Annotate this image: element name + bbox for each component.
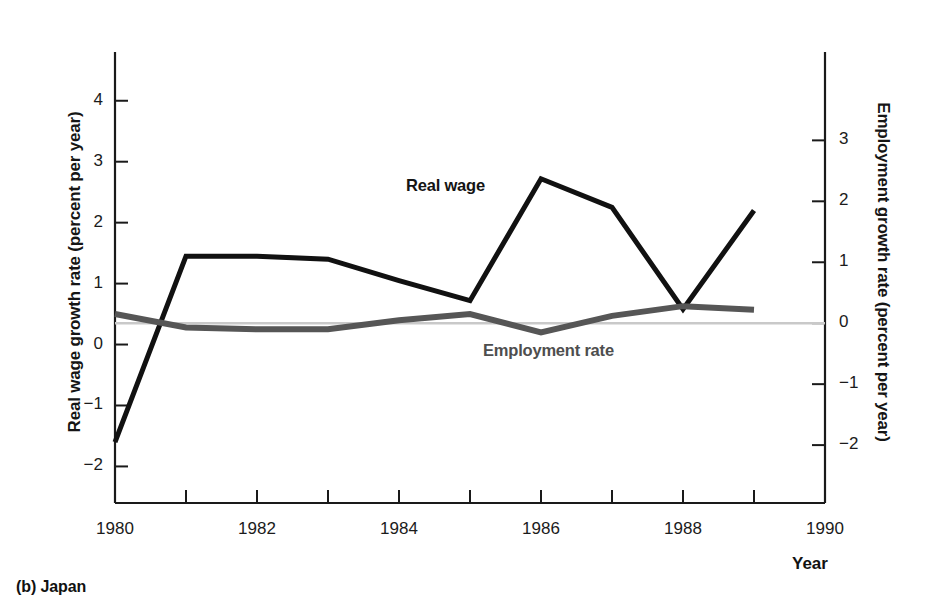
left-tick-label-1: 1 xyxy=(63,273,103,293)
series-label-real-wage: Real wage xyxy=(406,176,485,195)
plot-frame xyxy=(115,52,825,503)
right-tick-label-neg1: −1 xyxy=(839,373,879,393)
left-tick-label-neg2: −2 xyxy=(63,455,103,475)
left-tick-label-2: 2 xyxy=(63,212,103,232)
right-tick-label-0: 0 xyxy=(839,312,879,332)
left-tick-label-neg1: −1 xyxy=(63,394,103,414)
x-tick-label-1986: 1986 xyxy=(506,519,576,539)
right-tick-label-2: 2 xyxy=(839,190,879,210)
left-tick-label-4: 4 xyxy=(63,90,103,110)
x-tick-label-1980: 1980 xyxy=(80,519,150,539)
figure-japan-wage-employment: Real wage growth rate (percent per year)… xyxy=(0,0,939,612)
left-tick-label-3: 3 xyxy=(63,151,103,171)
right-tick-label-neg2: −2 xyxy=(839,434,879,454)
left-tick-label-0: 0 xyxy=(63,334,103,354)
right-tick-label-1: 1 xyxy=(839,251,879,271)
x-axis-title: Year xyxy=(792,554,828,574)
x-tick-label-1982: 1982 xyxy=(222,519,292,539)
x-tick-label-1988: 1988 xyxy=(648,519,718,539)
figure-caption: (b) Japan xyxy=(16,578,86,596)
series-label-employment: Employment rate xyxy=(483,341,614,360)
right-tick-label-3: 3 xyxy=(839,129,879,149)
series-line-employment-rate xyxy=(115,306,754,332)
data-series-group xyxy=(115,179,754,442)
x-tick-label-1984: 1984 xyxy=(364,519,434,539)
x-tick-label-1990: 1990 xyxy=(790,519,860,539)
right-axis-title: Employment growth rate (percent per year… xyxy=(873,57,893,487)
